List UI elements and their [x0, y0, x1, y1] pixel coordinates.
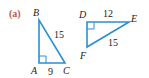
triangle-def: D E F 12 15: [78, 8, 137, 61]
figure: (a) B A C 9 15 D E F 12 15: [0, 0, 149, 78]
vertex-c-label: C: [63, 65, 70, 76]
side-ac-length: 9: [48, 66, 53, 77]
triangles-diagram: (a) B A C 9 15 D E F 12 15: [0, 0, 149, 78]
vertex-b-label: B: [33, 7, 39, 18]
side-bc-length: 15: [54, 29, 64, 40]
vertex-e-label: E: [130, 13, 137, 24]
part-label: (a): [9, 8, 21, 20]
vertex-f-label: F: [79, 50, 87, 61]
triangle-abc: B A C 9 15: [30, 7, 70, 77]
right-angle-marker-d: [87, 22, 94, 29]
right-angle-marker-a: [39, 56, 46, 63]
vertex-a-label: A: [30, 65, 38, 76]
side-ef-length: 15: [108, 37, 118, 48]
side-de-length: 12: [103, 8, 113, 19]
vertex-d-label: D: [78, 9, 87, 20]
